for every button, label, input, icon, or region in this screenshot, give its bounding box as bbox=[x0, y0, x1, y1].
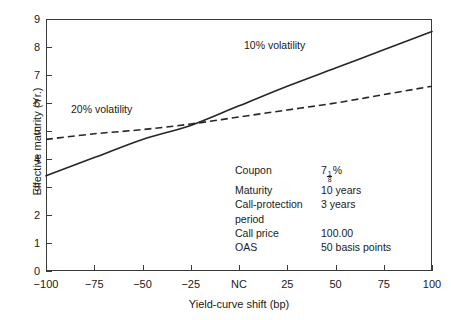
series-label-20pct-volatility: 20% volatility bbox=[71, 104, 132, 115]
plot-canvas bbox=[0, 0, 451, 320]
x-tick-label-25: 25 bbox=[281, 279, 293, 290]
parameter-value: 10 years bbox=[321, 183, 361, 197]
parameter-value: 718% bbox=[321, 163, 342, 183]
parameter-label: period bbox=[235, 212, 321, 226]
parameter-row: OAS50 basis points bbox=[235, 240, 391, 254]
x-tick-label-−25: −25 bbox=[181, 279, 200, 290]
y-axis-ticks bbox=[46, 20, 52, 272]
parameter-label: Coupon bbox=[235, 163, 321, 177]
parameter-annotation-block: Coupon718%Maturity10 yearsCall-protectio… bbox=[235, 163, 391, 254]
y-axis-title: Effective maturity (Yr.) bbox=[32, 42, 43, 242]
x-tick-label-−75: −75 bbox=[85, 279, 104, 290]
x-axis-title: Yield-curve shift (bp) bbox=[46, 299, 432, 310]
x-tick-label-NC: NC bbox=[231, 279, 247, 290]
parameter-label: Call price bbox=[235, 226, 321, 240]
parameter-value: 3 years bbox=[321, 197, 355, 211]
parameter-row: Coupon718% bbox=[235, 163, 391, 183]
x-tick-label-100: 100 bbox=[423, 279, 441, 290]
x-tick-label-50: 50 bbox=[329, 279, 341, 290]
y-tick-label-0: 0 bbox=[14, 266, 40, 277]
parameter-label: Maturity bbox=[235, 183, 321, 197]
x-axis-ticks bbox=[47, 265, 433, 271]
figure: 0123456789 −100−75−50−25NC255075100 Effe… bbox=[0, 0, 451, 320]
parameter-label: OAS bbox=[235, 240, 321, 254]
parameter-row: Maturity10 years bbox=[235, 183, 391, 197]
x-tick-label-75: 75 bbox=[378, 279, 390, 290]
parameter-value: 50 basis points bbox=[321, 240, 391, 254]
x-tick-label-−50: −50 bbox=[133, 279, 152, 290]
x-tick-label-−100: −100 bbox=[34, 279, 59, 290]
parameter-label: Call-protection bbox=[235, 197, 321, 211]
coupon-fraction: 18 bbox=[327, 171, 332, 183]
parameter-row: period bbox=[235, 212, 391, 226]
y-tick-label-9: 9 bbox=[14, 14, 40, 25]
series-label-10pct-volatility: 10% volatility bbox=[244, 40, 305, 51]
parameter-row: Call-protection3 years bbox=[235, 197, 391, 211]
parameter-value: 100.00 bbox=[321, 226, 353, 240]
parameter-row: Call price100.00 bbox=[235, 226, 391, 240]
